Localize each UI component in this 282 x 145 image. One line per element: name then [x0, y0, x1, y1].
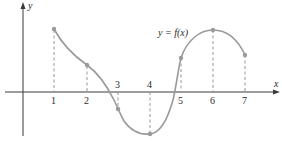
- point-x2: [85, 63, 89, 67]
- point-x4: [148, 132, 152, 136]
- tick-label-7: 7: [242, 95, 247, 106]
- point-x3: [116, 107, 120, 111]
- y-axis-label: y: [27, 0, 33, 11]
- point-x7: [243, 53, 247, 57]
- y-axis-arrow-icon: [21, 2, 26, 9]
- tick-label-1: 1: [51, 95, 56, 106]
- point-x1: [52, 27, 56, 31]
- point-x5: [179, 56, 183, 60]
- point-x6: [211, 28, 215, 32]
- x-axis-arrow-icon: [273, 90, 280, 95]
- tick-label-5: 5: [178, 95, 183, 106]
- tick-label-6: 6: [210, 95, 215, 106]
- function-label: y = f(x): [157, 27, 189, 39]
- tick-label-4: 4: [147, 79, 152, 90]
- function-graph: y x 1 2 3 4 5 6 7 y = f(x): [0, 0, 282, 145]
- tick-label-3: 3: [115, 79, 120, 90]
- tick-label-2: 2: [84, 95, 89, 106]
- x-axis-label: x: [273, 78, 279, 89]
